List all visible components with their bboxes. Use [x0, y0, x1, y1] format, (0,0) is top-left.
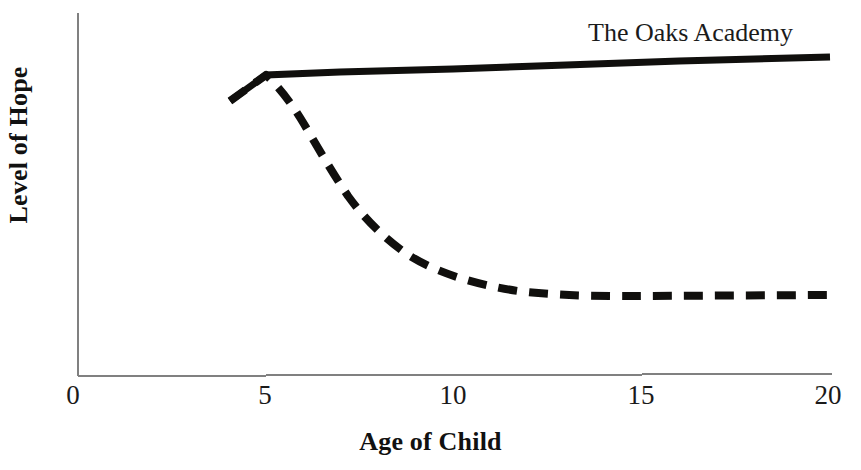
y-axis-title: Level of Hope [6, 35, 32, 255]
x-tick-label-0: 0 [43, 382, 103, 409]
x-tick-label-15: 15 [611, 382, 671, 409]
x-tick-label-20: 20 [798, 382, 858, 409]
y-axis-title-wrap: Level of Hope [6, 35, 46, 255]
series-annotation-oaks-academy: The Oaks Academy [588, 20, 793, 46]
x-axis-line [78, 374, 832, 376]
series-line-oaks-academy [230, 57, 830, 101]
x-tick-label-10: 10 [423, 382, 483, 409]
x-axis-title: Age of Child [0, 429, 861, 455]
series-line-typical [230, 75, 832, 296]
chart-canvas: 0 5 10 15 20 Age of Child Level of Hope … [0, 0, 861, 470]
x-tick-label-5: 5 [235, 382, 295, 409]
